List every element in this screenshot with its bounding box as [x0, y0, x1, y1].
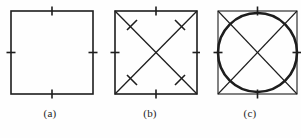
figure-panel-b: (b) — [100, 0, 200, 138]
figure-a-drawing — [0, 0, 100, 106]
figure-c-drawing — [200, 0, 301, 106]
figure-b-drawing — [100, 0, 200, 106]
panel-caption-c: (c) — [200, 106, 300, 120]
figure-panel-a: (a) — [0, 0, 100, 138]
figure-board: (a) (b) — [0, 0, 301, 138]
panel-caption-a: (a) — [0, 106, 100, 120]
square-outline-a — [11, 11, 93, 94]
figure-panel-c: (c) — [200, 0, 300, 138]
panel-caption-b: (b) — [100, 106, 200, 120]
